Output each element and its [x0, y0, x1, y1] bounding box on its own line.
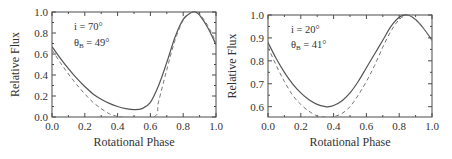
- chart-left: 0.00.20.40.60.81.0 0.00.20.40.60.81.0 i …: [8, 6, 223, 149]
- x-tick-label: 0.6: [144, 120, 158, 132]
- x-tick-label: 0.0: [261, 120, 275, 132]
- y-tick-label: 0.8: [250, 55, 264, 67]
- x-ticks: 0.00.20.40.60.81.0: [261, 15, 439, 132]
- y-tick-label: 0.6: [34, 48, 48, 60]
- x-tick-label: 0.2: [78, 120, 92, 132]
- x-tick-label: 0.6: [360, 120, 374, 132]
- x-tick-label: 1.0: [209, 120, 223, 132]
- y-tick-label: 0.9: [250, 32, 264, 44]
- annotation-theta: θB = 41°: [291, 39, 327, 52]
- x-tick-label: 0.0: [45, 120, 59, 132]
- y-tick-label: 1.0: [250, 9, 264, 21]
- y-axis-label: Relative Flux: [225, 34, 239, 99]
- y-tick-label: 0.2: [34, 90, 48, 102]
- annotation-inclination: i = 20°: [291, 24, 320, 35]
- x-tick-label: 0.2: [294, 120, 308, 132]
- y-tick-label: 0.6: [250, 101, 264, 113]
- y-tick-label: 0.4: [34, 69, 48, 81]
- figure: 0.00.20.40.60.81.0 0.00.20.40.60.81.0 i …: [0, 0, 452, 159]
- chart-right: 0.60.70.80.91.0 0.00.20.40.60.81.0 i = 2…: [225, 9, 439, 149]
- annotation-theta: θB = 49°: [74, 37, 110, 50]
- y-axis-label: Relative Flux: [8, 32, 22, 97]
- theta-value: = 41°: [301, 39, 327, 50]
- y-tick-label: 1.0: [34, 6, 48, 18]
- y-tick-label: 0.8: [34, 27, 48, 39]
- x-tick-label: 0.4: [111, 120, 125, 132]
- x-tick-label: 0.8: [176, 120, 190, 132]
- theta-value: = 49°: [84, 37, 110, 48]
- y-tick-label: 0.7: [250, 78, 264, 90]
- x-axis-label: Rotational Phase: [310, 135, 391, 149]
- x-tick-label: 0.4: [327, 120, 341, 132]
- x-axis-label: Rotational Phase: [94, 135, 175, 149]
- annotation-inclination: i = 70°: [74, 21, 103, 32]
- x-tick-label: 0.8: [392, 120, 406, 132]
- x-tick-label: 1.0: [425, 120, 439, 132]
